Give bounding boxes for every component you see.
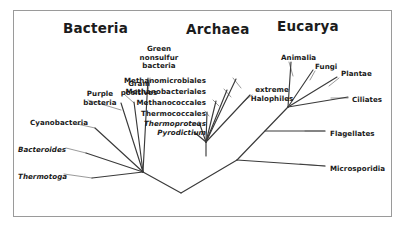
branch-root-to-bacteria — [143, 172, 181, 193]
taxon-plantae: Plantae — [341, 70, 372, 79]
domain-eucarya: Eucarya — [277, 18, 339, 34]
taxon-green-nonsulfur-bacteria: Greennonsulfurbacteria — [130, 45, 188, 71]
taxon-extreme-halophiles: extremeHalophiles — [243, 86, 301, 103]
taxon-ciliates: Ciliates — [352, 96, 382, 105]
branch-arch-methanomicrobiales — [206, 79, 236, 142]
branch-eucarya-stem — [237, 107, 288, 160]
taxon-microsporidia: Microsporidia — [330, 165, 385, 174]
taxon-bacteroides: Bacteroides — [18, 146, 66, 155]
taxon-pyrodictium: Pyrodictium — [86, 129, 206, 138]
leader-bacteroides — [66, 148, 86, 153]
leader-thermotoga — [64, 174, 92, 178]
branch-bact-thermotoga — [92, 172, 143, 178]
taxon-methanomicrobiales: Methanomicrobiales — [86, 77, 206, 86]
taxon-thermococcales: Thermococcales — [86, 110, 206, 119]
taxon-fungi: Fungi — [315, 63, 337, 72]
taxon-methanococcales: Methanococcales — [86, 99, 206, 108]
taxon-methanobacteriales: Methanobacteriales — [86, 88, 206, 97]
branch-bact-bacteroides — [86, 153, 143, 172]
branch-euc-microsporidia — [237, 160, 325, 166]
branch-root-to-archaea-eucarya — [181, 160, 237, 193]
taxon-cyanobacteria: Cyanobacteria — [30, 119, 88, 128]
domain-bacteria: Bacteria — [63, 20, 128, 36]
taxon-thermotoga: Thermotoga — [18, 173, 67, 182]
taxon-flagellates: Flagellates — [330, 130, 375, 139]
figure-canvas: BacteriaArchaeaEucarya ThermotogaBactero… — [0, 0, 405, 236]
taxon-animalia: Animalia — [281, 54, 316, 63]
taxon-thermoproteus: Thermoproteus — [86, 120, 206, 129]
domain-archaea: Archaea — [186, 21, 250, 37]
